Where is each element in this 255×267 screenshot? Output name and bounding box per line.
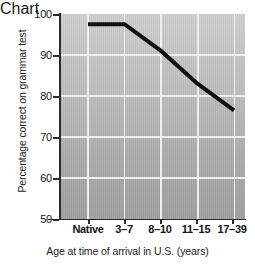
data-line-series	[60, 14, 245, 219]
y-tick-label-50: 50	[12, 213, 52, 225]
y-tick-label-60: 60	[12, 172, 52, 184]
data-polyline	[88, 24, 234, 110]
x-axis-title: Age at time of arrival in U.S. (years)	[0, 245, 255, 257]
grammar-test-line-chart: Percentage correct on grammar test 100 9…	[0, 0, 255, 267]
y-tick-label-80: 80	[12, 90, 52, 102]
y-tick-label-100: 100	[12, 8, 52, 20]
y-tick-label-90: 90	[12, 49, 52, 61]
x-axis-line	[48, 219, 246, 221]
y-tick-label-70: 70	[12, 131, 52, 143]
y-axis-title: Percentage correct on grammar test	[16, 4, 28, 219]
x-tick-label-17-39: 17–39	[204, 223, 255, 235]
plot-area	[60, 14, 245, 219]
y-axis-line	[59, 13, 61, 220]
